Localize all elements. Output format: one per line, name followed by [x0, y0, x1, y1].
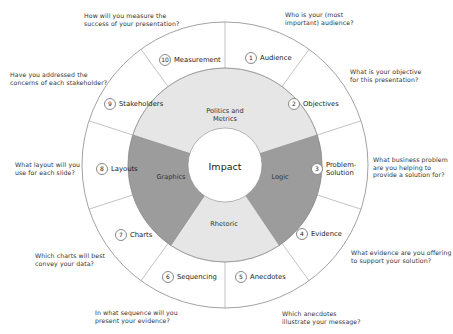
segment-label: Layouts — [111, 165, 138, 173]
question-line: What business problem — [373, 156, 448, 164]
question-line: Which anecdotes — [282, 310, 361, 318]
question-layouts: What layout will you use for each slide? — [15, 161, 80, 176]
question-anecdotes: Which anecdotes illustrate your message? — [282, 310, 361, 325]
segment-label: Evidence — [311, 230, 342, 238]
number-badge: 3 — [311, 163, 323, 175]
question-line: use for each slide? — [15, 169, 80, 177]
segment-label: Stakeholders — [119, 100, 163, 108]
question-line: important) audience? — [285, 19, 354, 27]
segment-measurement: 10 Measurement — [159, 54, 221, 66]
question-line: What evidence are you offering — [351, 249, 452, 257]
question-line: concerns of each stakeholder? — [10, 79, 107, 87]
question-charts: Which charts will best convey your data? — [35, 252, 105, 267]
segment-label: Objectives — [303, 100, 339, 108]
question-evidence: What evidence are you offering to suppor… — [351, 249, 452, 264]
question-line: convey your data? — [35, 260, 105, 268]
segment-evidence: 4 Evidence — [296, 228, 342, 240]
question-line: What layout will you — [15, 161, 80, 169]
question-line: are you helping to — [373, 164, 448, 172]
segment-label-line: Solution — [326, 169, 356, 177]
question-line: Which charts will best — [35, 252, 105, 260]
ring-label-rhetoric: Rhetoric — [210, 220, 238, 228]
ring-label-line: Metrics — [206, 115, 243, 123]
number-badge: 8 — [96, 163, 108, 175]
segment-label: Sequencing — [177, 273, 217, 281]
question-line: illustrate your message? — [282, 318, 361, 326]
segment-label: Charts — [130, 231, 152, 239]
question-audience: Who is your (most important) audience? — [285, 11, 354, 26]
segment-stakeholders: 9 Stakeholders — [104, 98, 163, 110]
ring-label-graphics: Graphics — [156, 173, 185, 181]
segment-label: Anecdotes — [250, 273, 286, 281]
segment-label: Problem- Solution — [326, 161, 356, 177]
question-sequencing: In what sequence will you present your e… — [95, 309, 178, 324]
number-badge: 2 — [288, 98, 300, 110]
question-line: What is your objective — [350, 68, 421, 76]
number-badge: 4 — [296, 228, 308, 240]
question-line: to support your solution? — [351, 257, 452, 265]
segment-audience: 1 Audience — [245, 52, 292, 64]
question-measurement: How will you measure the success of your… — [84, 12, 179, 27]
segment-anecdotes: 5 Anecdotes — [235, 271, 286, 283]
number-badge: 10 — [159, 54, 171, 66]
number-badge: 6 — [162, 271, 174, 283]
question-line: present your evidence? — [95, 317, 178, 325]
segment-sequencing: 6 Sequencing — [162, 271, 217, 283]
number-badge: 9 — [104, 98, 116, 110]
question-stakeholders: Have you addressed the concerns of each … — [10, 71, 107, 86]
segment-label: Audience — [260, 54, 292, 62]
question-problem-solution: What business problem are you helping to… — [373, 156, 448, 179]
number-badge: 5 — [235, 271, 247, 283]
segment-problem-solution: 3 Problem- Solution — [311, 161, 356, 177]
segment-charts: 7 Charts — [115, 229, 152, 241]
ring-label-line: Politics and — [206, 107, 243, 115]
number-badge: 1 — [245, 52, 257, 64]
question-line: for this presentation? — [350, 76, 421, 84]
question-objectives: What is your objective for this presenta… — [350, 68, 421, 83]
segment-objectives: 2 Objectives — [288, 98, 339, 110]
ring-label-politics-metrics: Politics and Metrics — [206, 107, 243, 123]
segment-layouts: 8 Layouts — [96, 163, 138, 175]
question-line: Who is your (most — [285, 11, 354, 19]
number-badge: 7 — [115, 229, 127, 241]
ring-label-logic: Logic — [271, 173, 288, 181]
question-line: How will you measure the — [84, 12, 179, 20]
segment-label: Measurement — [174, 56, 221, 64]
question-line: success of your presentation? — [84, 20, 179, 28]
segment-label-line: Problem- — [326, 161, 356, 169]
center-label-impact: Impact — [209, 161, 242, 172]
question-line: Have you addressed the — [10, 71, 107, 79]
question-line: provide a solution for? — [373, 171, 448, 179]
question-line: In what sequence will you — [95, 309, 178, 317]
